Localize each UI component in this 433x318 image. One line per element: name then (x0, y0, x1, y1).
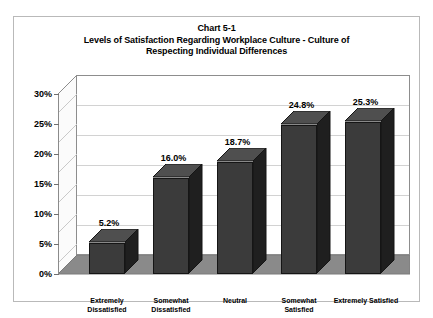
bar-front-face (281, 125, 317, 274)
chart-title-line-3: Respecting Individual Differences (14, 46, 419, 58)
plot-left-wall (58, 75, 77, 274)
bar-side-face (189, 164, 203, 274)
x-axis-label-line: Extremely Satisfied (323, 297, 409, 306)
bar-side-face (317, 111, 331, 274)
y-tick-25 (54, 124, 59, 125)
x-axis-label-line: Somewhat (136, 297, 206, 306)
x-axis-label-line: Dissatisfied (136, 306, 206, 315)
y-axis-label-0: 0% (39, 269, 52, 279)
x-axis-label-neutral: Neutral (200, 297, 270, 306)
y-tick-30 (54, 94, 59, 95)
chart-frame: Chart 5-1 Levels of Satisfaction Regardi… (13, 16, 420, 302)
bar-front-face (153, 178, 189, 274)
bar-somewhat-satisfied[interactable]: 24.8% (281, 125, 317, 274)
bar-side-face (253, 148, 267, 274)
bar-extremely-dissatisfied[interactable]: 5.2% (89, 243, 125, 274)
y-axis-label-30: 30% (34, 89, 52, 99)
bar-extremely-satisfied[interactable]: 25.3% (345, 122, 381, 274)
bar-neutral[interactable]: 18.7% (217, 162, 253, 274)
y-tick-0 (54, 274, 59, 275)
bar-value-label: 25.3% (353, 97, 379, 107)
bar-front-face (345, 122, 381, 274)
chart-title: Chart 5-1 Levels of Satisfaction Regardi… (14, 23, 419, 58)
x-axis-label-line: Satisfied (264, 306, 334, 315)
y-axis-label-20: 20% (34, 149, 52, 159)
chart-title-line-2: Levels of Satisfaction Regarding Workpla… (14, 35, 419, 47)
bar-value-label: 24.8% (289, 100, 315, 110)
bar-value-label: 16.0% (161, 153, 187, 163)
y-tick-15 (54, 184, 59, 185)
chart-title-line-1: Chart 5-1 (14, 23, 419, 35)
bar-value-label: 5.2% (99, 218, 120, 228)
bar-value-label: 18.7% (225, 137, 251, 147)
bar-side-face (125, 229, 139, 274)
bar-somewhat-dissatisfied[interactable]: 16.0% (153, 178, 189, 274)
y-tick-20 (54, 154, 59, 155)
x-axis-label-line: Dissatisfied (72, 306, 142, 315)
y-tick-5 (54, 244, 59, 245)
x-axis-label-somewhat-dissatisfied: Somewhat Dissatisfied (136, 297, 206, 314)
x-axis-label-line: Extremely (72, 297, 142, 306)
y-axis-label-15: 15% (34, 179, 52, 189)
y-axis-label-25: 25% (34, 119, 52, 129)
plot-area: 30% 25% 20% 15% 10% 5% 0% 5.2% (58, 75, 410, 293)
bar-side-face (381, 108, 395, 274)
x-axis-label-extremely-dissatisfied: Extremely Dissatisfied (72, 297, 142, 314)
y-tick-10 (54, 214, 59, 215)
x-axis-label-line: Neutral (200, 297, 270, 306)
bar-front-face (89, 243, 125, 274)
x-axis-label-extremely-satisfied: Extremely Satisfied (323, 297, 409, 306)
bar-front-face (217, 162, 253, 274)
y-axis-label-10: 10% (34, 209, 52, 219)
y-axis-label-5: 5% (39, 239, 52, 249)
